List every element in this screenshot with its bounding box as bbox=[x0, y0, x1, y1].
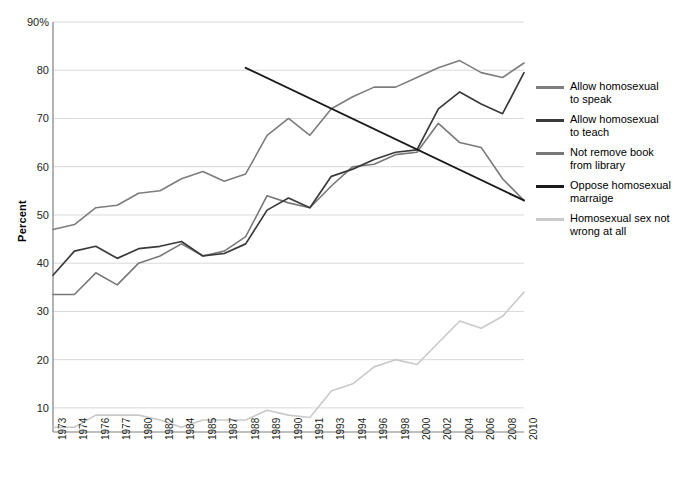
x-axis-tick-1996: 1996 bbox=[378, 418, 389, 440]
legend-label-line1: Oppose homosexual bbox=[570, 179, 671, 192]
gridlines bbox=[53, 22, 524, 408]
y-axis-tick-40: 40 bbox=[5, 257, 49, 269]
series-line-allow-teach bbox=[53, 73, 524, 276]
x-axis-tick-1985: 1985 bbox=[207, 418, 218, 440]
legend-label-line1: Allow homosexual bbox=[570, 80, 659, 93]
x-axis-tick-2004: 2004 bbox=[464, 418, 475, 440]
x-axis-tick-2002: 2002 bbox=[442, 418, 453, 440]
x-axis-tick-1991: 1991 bbox=[314, 418, 325, 440]
legend-label-line2: from library bbox=[570, 159, 654, 172]
legend-swatch-icon bbox=[536, 218, 564, 221]
x-axis-tick-1987: 1987 bbox=[228, 418, 239, 440]
legend-label-line2: marraige bbox=[570, 192, 671, 205]
y-axis-tick-group: 102030405060708090% bbox=[0, 0, 49, 491]
legend-item-label: Allow homosexualto teach bbox=[570, 113, 659, 139]
legend-item-label: Allow homosexualto speak bbox=[570, 80, 659, 106]
x-axis-tick-1984: 1984 bbox=[185, 418, 196, 440]
x-axis-tick-1993: 1993 bbox=[335, 418, 346, 440]
x-axis-tick-1976: 1976 bbox=[100, 418, 111, 440]
x-axis-tick-1989: 1989 bbox=[271, 418, 282, 440]
legend-swatch-icon bbox=[536, 86, 564, 89]
x-axis-tick-2010: 2010 bbox=[528, 418, 539, 440]
y-axis-tick-50: 50 bbox=[5, 209, 49, 221]
legend-label-line1: Allow homosexual bbox=[570, 113, 659, 126]
legend-label-line2: to speak bbox=[570, 93, 659, 106]
legend-item-3[interactable]: Oppose homosexualmarraige bbox=[536, 179, 674, 205]
legend-swatch-icon bbox=[536, 152, 564, 155]
x-axis-tick-2008: 2008 bbox=[507, 418, 518, 440]
legend-swatch-icon bbox=[536, 185, 564, 188]
y-axis-tick-60: 60 bbox=[5, 161, 49, 173]
legend-item-label: Homosexual sex notwrong at all bbox=[570, 212, 670, 238]
legend-item-2[interactable]: Not remove bookfrom library bbox=[536, 146, 674, 172]
chart-axes bbox=[53, 22, 524, 432]
data-series-group bbox=[53, 61, 524, 428]
x-axis-tick-1977: 1977 bbox=[121, 418, 132, 440]
legend-label-line1: Not remove book bbox=[570, 146, 654, 159]
y-axis-tick-10: 10 bbox=[5, 402, 49, 414]
legend-item-0[interactable]: Allow homosexualto speak bbox=[536, 80, 674, 106]
x-axis-tick-1980: 1980 bbox=[143, 418, 154, 440]
x-axis-tick-1988: 1988 bbox=[250, 418, 261, 440]
legend-item-1[interactable]: Allow homosexualto teach bbox=[536, 113, 674, 139]
chart-legend: Allow homosexualto speakAllow homosexual… bbox=[536, 80, 674, 245]
chart-container: Percent 102030405060708090% 197319741976… bbox=[0, 0, 675, 491]
legend-label-line1: Homosexual sex not bbox=[570, 212, 670, 225]
legend-label-line2: wrong at all bbox=[570, 225, 670, 238]
legend-item-4[interactable]: Homosexual sex notwrong at all bbox=[536, 212, 674, 238]
y-axis-tick-90: 90% bbox=[5, 16, 49, 28]
x-axis-tick-1973: 1973 bbox=[57, 418, 68, 440]
y-axis-tick-20: 20 bbox=[5, 354, 49, 366]
x-axis-tick-1990: 1990 bbox=[293, 418, 304, 440]
x-axis-tick-1982: 1982 bbox=[164, 418, 175, 440]
y-axis-tick-30: 30 bbox=[5, 305, 49, 317]
y-axis-tick-80: 80 bbox=[5, 64, 49, 76]
x-axis-tick-1998: 1998 bbox=[400, 418, 411, 440]
y-axis-tick-70: 70 bbox=[5, 112, 49, 124]
legend-swatch-icon bbox=[536, 119, 564, 122]
x-axis-tick-2000: 2000 bbox=[421, 418, 432, 440]
x-axis-tick-1994: 1994 bbox=[357, 418, 368, 440]
legend-item-label: Not remove bookfrom library bbox=[570, 146, 654, 172]
series-line-not-remove-book bbox=[53, 123, 524, 294]
series-line-allow-speak bbox=[53, 61, 524, 230]
legend-item-label: Oppose homosexualmarraige bbox=[570, 179, 671, 205]
legend-label-line2: to teach bbox=[570, 126, 659, 139]
x-axis-tick-1974: 1974 bbox=[78, 418, 89, 440]
x-axis-tick-2006: 2006 bbox=[485, 418, 496, 440]
